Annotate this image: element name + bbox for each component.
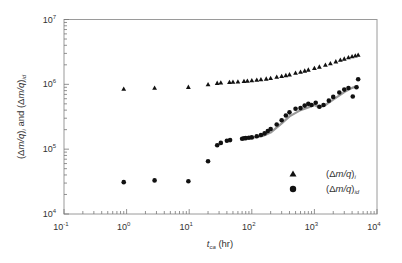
triangle-point bbox=[333, 59, 338, 63]
circle-point bbox=[350, 94, 355, 99]
legend-label: (Δm/q)i bbox=[326, 168, 357, 180]
circle-point bbox=[317, 105, 322, 110]
y-tick-label: 107 bbox=[43, 14, 57, 25]
circle-point bbox=[337, 90, 342, 95]
triangle-point bbox=[346, 55, 351, 59]
x-tick-label: 10-1 bbox=[53, 221, 69, 232]
y-axis-label: (Δm/q)i and (Δm/q)id bbox=[15, 74, 27, 159]
triangle-point bbox=[186, 85, 191, 89]
triangle-point bbox=[121, 87, 126, 91]
circle-point bbox=[284, 113, 289, 118]
triangle-point bbox=[283, 73, 288, 77]
x-tick-label: 101 bbox=[180, 221, 194, 232]
x-tick-label: 103 bbox=[305, 221, 319, 232]
triangle-point bbox=[231, 80, 236, 84]
triangle-point bbox=[342, 56, 347, 60]
circle-point bbox=[206, 159, 211, 164]
legend-label: (Δm/q)id bbox=[326, 183, 360, 195]
circle-point bbox=[287, 110, 292, 115]
data-points bbox=[121, 52, 360, 184]
triangle-point bbox=[264, 76, 269, 80]
y-tick-label: 104 bbox=[43, 208, 57, 219]
triangle-point bbox=[298, 69, 303, 73]
triangle-point bbox=[259, 77, 264, 81]
y-tick-label: 106 bbox=[43, 78, 57, 89]
circle-point bbox=[331, 95, 336, 100]
circle-point bbox=[228, 138, 233, 143]
triangle-point bbox=[328, 61, 333, 65]
triangle-point bbox=[312, 66, 317, 70]
legend-circle-icon bbox=[290, 186, 296, 192]
circle-point bbox=[327, 98, 332, 103]
circle-point bbox=[342, 87, 347, 92]
triangle-point bbox=[302, 68, 307, 72]
circle-point bbox=[309, 103, 314, 108]
circle-point bbox=[346, 86, 351, 91]
circle-point bbox=[152, 178, 157, 183]
triangle-point bbox=[152, 86, 157, 90]
x-tick-label: 102 bbox=[242, 221, 256, 232]
circle-point bbox=[313, 100, 318, 105]
circle-point bbox=[219, 141, 224, 146]
circle-point bbox=[293, 106, 298, 111]
triangle-point bbox=[249, 78, 254, 82]
circle-point bbox=[186, 179, 191, 184]
circle-point bbox=[321, 103, 326, 108]
triangle-point bbox=[356, 52, 361, 56]
x-tick-label: 100 bbox=[117, 221, 131, 232]
circle-point bbox=[121, 180, 126, 185]
triangle-point bbox=[323, 62, 328, 66]
triangle-point bbox=[293, 71, 298, 75]
circle-point bbox=[254, 134, 259, 139]
triangle-point bbox=[338, 58, 343, 62]
circle-point bbox=[274, 122, 279, 127]
log-log-scatter-chart: 10-1100101102103104104105106107tca (hr)(… bbox=[0, 0, 402, 263]
y-tick-label: 105 bbox=[43, 143, 57, 154]
circle-point bbox=[298, 106, 303, 111]
axis-labels: 10-1100101102103104104105106107tca (hr)(… bbox=[15, 14, 381, 251]
circle-point bbox=[268, 127, 273, 132]
triangle-point bbox=[274, 75, 279, 79]
triangle-point bbox=[268, 76, 273, 80]
legend-triangle-icon bbox=[290, 171, 297, 177]
legend: (Δm/q)i(Δm/q)id bbox=[290, 168, 360, 195]
x-axis-label: tca (hr) bbox=[207, 238, 233, 250]
triangle-point bbox=[317, 64, 322, 68]
triangle-point bbox=[236, 79, 241, 83]
triangle-point bbox=[287, 72, 292, 76]
triangle-point bbox=[206, 82, 211, 86]
x-tick-label: 104 bbox=[367, 221, 381, 232]
triangle-point bbox=[218, 80, 223, 84]
circle-point bbox=[356, 77, 361, 82]
circle-point bbox=[354, 85, 359, 90]
triangle-point bbox=[245, 78, 250, 82]
triangle-point bbox=[279, 74, 284, 78]
triangle-point bbox=[254, 78, 259, 82]
triangle-point bbox=[306, 67, 311, 71]
circle-point bbox=[279, 118, 284, 123]
circle-point bbox=[250, 135, 255, 140]
